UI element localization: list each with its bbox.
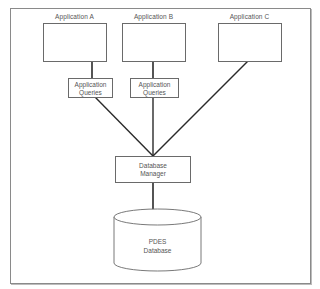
queries-b-line1: Application	[131, 81, 178, 89]
application-a-queries-box: Application Queries	[68, 78, 113, 98]
database-line2: Database	[114, 247, 201, 255]
queries-a-line2: Queries	[69, 89, 112, 97]
connector-app-c-manager	[153, 61, 248, 156]
queries-a-line1: Application	[69, 81, 112, 89]
application-c-box	[218, 23, 282, 62]
connector-queries-a-manager	[95, 97, 153, 156]
manager-line2: Manager	[116, 170, 190, 178]
application-a-label: Application A	[43, 13, 106, 20]
application-b-queries-box: Application Queries	[130, 78, 179, 98]
pdes-architecture-diagram: Application A Application B Application …	[0, 0, 320, 289]
queries-b-line2: Queries	[131, 89, 178, 97]
application-c-label: Application C	[218, 13, 281, 20]
manager-line1: Database	[116, 162, 190, 170]
database-line1: PDES	[114, 238, 201, 246]
application-b-label: Application B	[122, 13, 185, 20]
application-a-box	[43, 23, 107, 62]
database-manager-box: Database Manager	[115, 156, 191, 183]
application-b-box	[122, 23, 186, 62]
